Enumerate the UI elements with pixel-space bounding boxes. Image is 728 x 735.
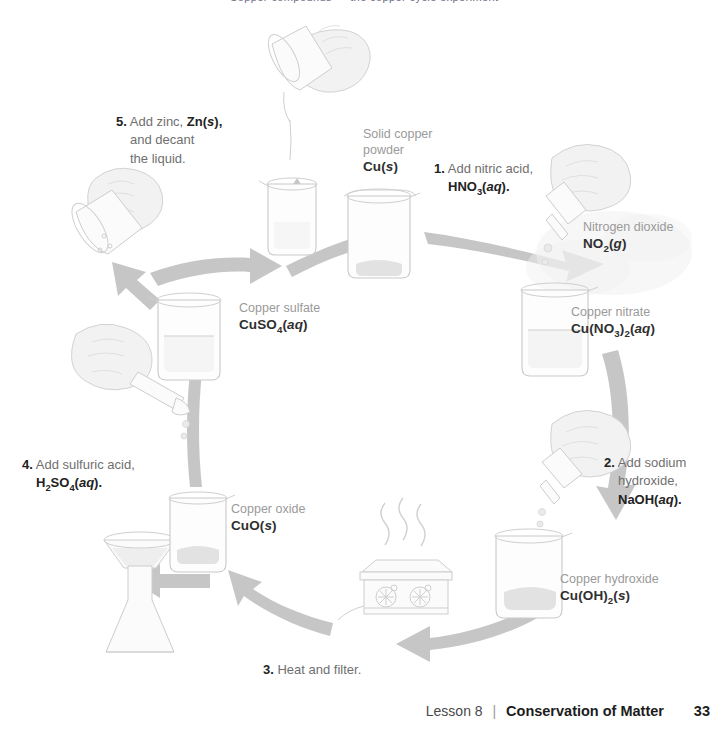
- droplet: [544, 244, 552, 252]
- copper-nitrate-formula: Cu(NO3)2(aq): [571, 320, 655, 340]
- step-2-line2: hydroxide,: [604, 472, 686, 490]
- arrow-3-heat-and-filter-left: [228, 570, 333, 636]
- step-1-text: 1. Add nitric acid, HNO3(aq).: [434, 160, 533, 199]
- step-1-line1: Add nitric acid,: [448, 161, 533, 176]
- droplet: [183, 421, 190, 428]
- step-2-text: 2. Add sodium hydroxide, NaOH(aq).: [604, 454, 686, 509]
- step-4-line1: Add sulfuric acid,: [36, 457, 135, 472]
- step-3-number: 3.: [263, 662, 274, 677]
- copper-oxide-formula: CuO(s): [231, 517, 305, 534]
- step-5-text: 5. Add zinc, Zn(s), and decant the liqui…: [116, 113, 222, 168]
- step-1-number: 1.: [434, 161, 445, 176]
- copper-oxide-name: Copper oxide: [231, 501, 305, 517]
- steam-wave-2: [399, 498, 407, 540]
- copper-sulfate-formula: CuSO4(aq): [239, 316, 320, 336]
- copper-cycle-illustration: [0, 0, 728, 735]
- label-copper-sulfate: Copper sulfate CuSO4(aq): [239, 300, 320, 336]
- step-5-line1: Add zinc,: [130, 114, 183, 129]
- step-1-formula: HNO3(aq).: [434, 178, 533, 199]
- copper-sulfate-name: Copper sulfate: [239, 300, 320, 316]
- beaker-receiving-pour: [259, 178, 317, 255]
- step-2-line1: Add sodium: [618, 455, 687, 470]
- dropper-tube: [540, 480, 560, 504]
- label-copper-hydroxide: Copper hydroxide Cu(OH)2(s): [560, 571, 659, 607]
- filter-flask-with-funnel: [104, 532, 176, 652]
- droplet: [537, 521, 543, 527]
- footer-title: Conservation of Matter: [506, 703, 664, 719]
- pour-stream: [284, 92, 290, 122]
- copper-powder-name-line2: powder: [363, 142, 433, 158]
- step-5-number: 5.: [116, 114, 127, 129]
- nitrogen-dioxide-formula: NO2(g): [583, 235, 673, 255]
- step-2-number: 2.: [604, 455, 615, 470]
- arrow-5-zinc-to-copper: [150, 248, 282, 286]
- footer-separator: |: [493, 703, 497, 719]
- hand-pouring-beaker: [262, 26, 370, 160]
- beaker-copper-powder: [344, 189, 420, 278]
- step-3-text: 3. Heat and filter.: [263, 661, 361, 679]
- footer-lesson: Lesson 8: [426, 703, 483, 719]
- step-4-text: 4. Add sulfuric acid, H2SO4(aq).: [22, 456, 135, 495]
- label-nitrogen-dioxide: Nitrogen dioxide NO2(g): [583, 219, 673, 255]
- step-2-formula: NaOH(aq).: [604, 491, 686, 509]
- footer-page-number: 33: [694, 703, 710, 719]
- step-4-number: 4.: [22, 457, 33, 472]
- droplet: [181, 433, 187, 439]
- steam-wave-1: [381, 503, 389, 545]
- steam-wave-3: [417, 504, 425, 546]
- copper-hydroxide-formula: Cu(OH)2(s): [560, 587, 659, 607]
- step-5-line2: and decant: [116, 131, 222, 149]
- step-3-line1: Heat and filter.: [277, 662, 361, 677]
- copper-nitrate-name: Copper nitrate: [571, 304, 655, 320]
- label-copper-oxide: Copper oxide CuO(s): [231, 501, 305, 534]
- nitrogen-dioxide-name: Nitrogen dioxide: [583, 219, 673, 235]
- label-copper-nitrate: Copper nitrate Cu(NO3)2(aq): [571, 304, 655, 340]
- copper-powder-name-line1: Solid copper: [363, 126, 433, 142]
- beaker-copper-sulfate: [148, 293, 221, 380]
- copper-hydroxide-name: Copper hydroxide: [560, 571, 659, 587]
- copper-powder-formula: Cu(s): [363, 158, 433, 175]
- arrow-sulfate-to-zinc: [112, 262, 160, 310]
- step-5-line3: the liquid.: [116, 150, 222, 168]
- droplet: [542, 259, 548, 265]
- label-copper-powder: Solid copper powder Cu(s): [363, 126, 433, 175]
- beaker-copper-oxide: [169, 492, 235, 572]
- hand-decanting-beaker: [65, 168, 163, 258]
- step-4-formula: H2SO4(aq).: [22, 474, 135, 495]
- page-footer: Lesson 8 | Conservation of Matter 33: [0, 703, 728, 719]
- hot-plate: [338, 498, 452, 620]
- step-5-formula: Zn(s),: [187, 114, 222, 129]
- textbook-page: Copper compounds — the copper cycle expe…: [0, 0, 728, 735]
- droplet: [539, 509, 546, 516]
